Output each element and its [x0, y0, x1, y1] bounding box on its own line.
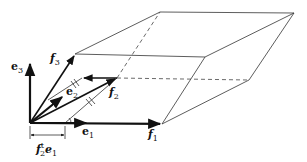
- vectors: [30, 56, 160, 124]
- edge-top-back: [160, 12, 294, 13]
- label-e2: e2: [66, 85, 78, 100]
- label-f1: f1: [147, 128, 158, 143]
- label-f3: f3: [49, 52, 60, 67]
- edge-f1f2-to-top: [249, 13, 294, 80]
- vector-e2: [30, 97, 62, 123]
- parallelepiped-edges: [75, 12, 294, 124]
- hidden-edge-f2-right: [117, 78, 249, 80]
- edge-f3-to-f1f3: [75, 54, 205, 57]
- hidden-edges: [117, 12, 249, 80]
- label-e1: e1: [82, 125, 94, 140]
- label-e3: e3: [11, 60, 23, 75]
- edge-f3-to-f2f3: [75, 12, 160, 54]
- hidden-edge-f2-up: [117, 12, 160, 78]
- edge-f1f3-to-top: [205, 13, 294, 57]
- label-f2: f2: [108, 86, 119, 101]
- label-projection-f2t-e1: ft2e1: [35, 141, 57, 158]
- edge-f1-to-f1f3: [162, 57, 205, 124]
- construction-lines: [30, 78, 117, 139]
- edge-f1-to-f1f2: [162, 80, 249, 124]
- parallelepiped-diagram: e3 f3 e2 f2 e1 f1 ft2e1: [0, 0, 307, 162]
